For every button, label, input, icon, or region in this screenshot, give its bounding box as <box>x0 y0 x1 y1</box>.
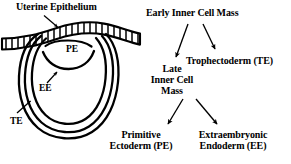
pointer-uterine-epithelium <box>44 16 58 28</box>
node-primitive-ectoderm: Primitive Ectoderm (PE) <box>110 130 173 152</box>
node-late-icm-line2: Inner Cell <box>151 75 193 86</box>
figure-root: Uterine Epithelium PE EE TE Early Inner … <box>0 0 291 164</box>
node-trophectoderm: Trophectoderm (TE) <box>186 56 273 67</box>
pointer-te <box>17 101 31 113</box>
label-ee: EE <box>39 83 51 93</box>
node-extraembryonic-endoderm: Extraembryonic Endoderm (EE) <box>199 130 268 152</box>
arrow-late-to-primitive-ectoderm <box>168 99 183 124</box>
arrow-early-to-late-icm <box>176 24 188 57</box>
node-extraembryonic-endoderm-line2: Endoderm (EE) <box>199 141 268 152</box>
arrow-late-to-extraembryonic-endoderm <box>196 99 217 124</box>
label-uterine-epithelium: Uterine Epithelium <box>16 2 97 13</box>
node-early-inner-cell-mass: Early Inner Cell Mass <box>146 8 238 19</box>
pointer-ee <box>47 72 57 83</box>
arrow-early-to-trophectoderm <box>203 24 215 49</box>
node-primitive-ectoderm-line2: Ectoderm (PE) <box>110 141 173 152</box>
node-late-icm-line3: Mass <box>151 86 193 97</box>
node-late-inner-cell-mass: Late Inner Cell Mass <box>151 64 193 96</box>
label-te: TE <box>10 116 22 126</box>
label-pe: PE <box>66 44 78 54</box>
